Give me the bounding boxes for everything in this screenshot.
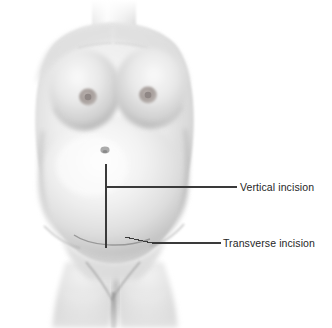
illustration-figure: Vertical incision Transverse incision [0,0,332,328]
right-nipple [145,92,152,98]
anatomy-illustration [0,0,332,328]
vertical-incision-label: Vertical incision [240,181,314,193]
left-nipple [85,94,92,100]
top-fade [0,0,332,26]
transverse-incision-label: Transverse incision [223,237,315,249]
umbilicus-center [103,150,108,153]
bottom-fade [0,288,332,328]
